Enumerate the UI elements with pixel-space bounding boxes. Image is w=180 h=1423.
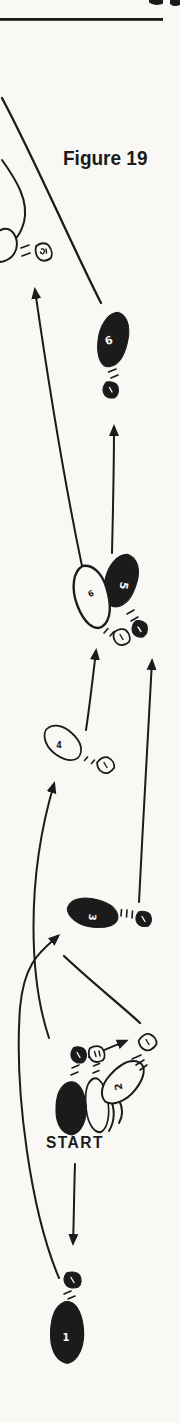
- page-top-rule: [0, 18, 163, 21]
- path-line-3-to-heel-2: [64, 956, 140, 1023]
- footprint-4-hatch: [85, 757, 95, 764]
- start-left-sole: [55, 1081, 87, 1135]
- footprint-1-number: 1: [63, 1332, 70, 1343]
- footprint-4-sole: [38, 719, 88, 766]
- footprint-1: 1: [49, 1272, 84, 1364]
- footwork-diagram: 6 5 6 4: [0, 0, 180, 1423]
- footprint-exit-partial: [0, 229, 53, 263]
- arrow-start-to-1: [73, 1164, 75, 1243]
- footprint-3-hatch: [121, 910, 133, 919]
- footprint-3-number: 3: [87, 913, 99, 921]
- footprint-6-hatch: [109, 369, 119, 378]
- footprint-5-hatch: [127, 610, 138, 621]
- book-page-scan: Figure 19 START: [0, 0, 180, 1423]
- path-line-6-to-exit: [2, 98, 101, 303]
- arrow-2-to-4: [34, 784, 55, 1038]
- arrow-5-to-6: [112, 427, 114, 553]
- footprint-4: 4: [38, 719, 117, 776]
- footprint-4-number: 4: [56, 741, 62, 750]
- arrow-1-to-3: [19, 936, 59, 1278]
- start-right-heel: [88, 1045, 106, 1063]
- footprint-6: 6: [94, 310, 133, 399]
- footprint-start-left: [55, 1046, 87, 1135]
- pivot-arc-inner: [119, 1100, 122, 1123]
- arrow-4-to-close: [86, 651, 96, 730]
- arrow-3-to-5: [139, 661, 152, 902]
- exit-foot-toe: [0, 229, 17, 262]
- cropped-page-header-text: [149, 0, 180, 6]
- footprint-6-sole: [94, 310, 133, 370]
- footprint-2: 2: [95, 1031, 159, 1111]
- exit-foot-hatch: [21, 245, 30, 256]
- footprint-6-close-hatch: [104, 629, 114, 637]
- arrow-close-to-exit: [35, 290, 82, 566]
- footprint-1-hatch: [64, 1291, 75, 1299]
